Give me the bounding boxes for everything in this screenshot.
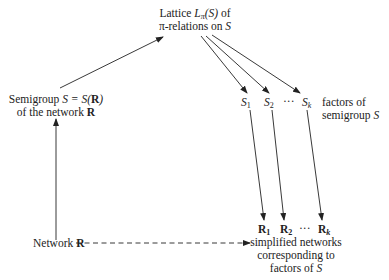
network-node: Network R	[33, 237, 84, 250]
network-r1: R1	[258, 223, 270, 236]
factors-caption: factors of semigroup S	[322, 96, 379, 122]
edge-semigroup-to-lattice	[60, 37, 163, 88]
simplified-caption-line-1: simplified networks	[246, 236, 346, 249]
network-r2: R2	[280, 223, 292, 236]
ellipsis: ···	[283, 95, 295, 107]
simplified-caption-text: factors of	[270, 262, 317, 274]
factor-s2: S2	[264, 96, 274, 109]
edge-sk-to-rk	[307, 110, 322, 220]
lattice-node: Lattice Lπ(S) of π-relations on S	[140, 7, 250, 33]
factors-caption-symbol: S	[373, 109, 379, 121]
lattice-label: Lattice	[159, 7, 194, 19]
factor-s1: S1	[241, 96, 251, 109]
semigroup-node: Semigroup S = S(R) of the network R	[0, 93, 112, 119]
lattice-set-symbol: S	[225, 20, 231, 32]
factors-caption-text: semigroup	[322, 109, 373, 121]
semigroup-line-2: of the network R	[0, 106, 112, 119]
factor-sk: Sk	[302, 96, 311, 109]
network-ellipsis: ···	[299, 222, 311, 235]
network-symbol: R	[76, 237, 84, 249]
simplified-caption-line-2: corresponding to	[246, 249, 346, 262]
semigroup-line-1: Semigroup S = S(R)	[0, 93, 112, 106]
semigroup-equation: S = S(	[62, 93, 91, 105]
lattice-suffix: of	[218, 7, 230, 19]
edge-lattice-to-s1	[201, 36, 247, 93]
factor-subscript: 2	[270, 101, 274, 110]
lattice-line-2: π-relations on S	[140, 20, 250, 33]
semigroup-close-paren: )	[99, 93, 103, 105]
semigroup-network-bold: R	[87, 106, 95, 118]
edge-lattice-to-s2	[206, 36, 269, 93]
semigroup-label: Semigroup	[9, 93, 62, 105]
lattice-relations-label: π-relations on	[159, 20, 225, 32]
simplified-caption-symbol: S	[316, 262, 322, 274]
factor-ellipsis: ···	[283, 95, 295, 108]
simplified-caption-line-3: factors of S	[246, 262, 346, 275]
diagram-canvas: Lattice Lπ(S) of π-relations on S Semigr…	[0, 0, 389, 280]
lattice-line-1: Lattice Lπ(S) of	[140, 7, 250, 20]
simplified-caption: simplified networks corresponding to fac…	[246, 236, 346, 275]
factors-caption-line-2: semigroup S	[322, 109, 379, 122]
edge-s1-to-r1	[250, 110, 264, 220]
factor-subscript: k	[308, 101, 312, 110]
edge-lattice-to-sk	[212, 35, 300, 93]
network-rk: Rk	[318, 223, 330, 236]
edge-s2-to-r2	[272, 110, 284, 220]
network-label: Network	[33, 237, 76, 249]
factors-caption-line-1: factors of	[322, 96, 379, 109]
semigroup-network-label: of the network	[17, 106, 87, 118]
ellipsis: ···	[299, 222, 311, 234]
factor-subscript: 1	[247, 101, 251, 110]
lattice-argument: (S)	[205, 7, 218, 19]
